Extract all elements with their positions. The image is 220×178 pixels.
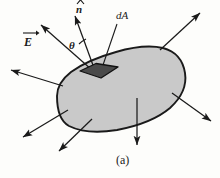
label-normal-vector-text: n <box>76 3 82 15</box>
arrow-E-main <box>41 25 92 70</box>
arrow-upper-right <box>160 13 200 50</box>
arrow-right <box>172 93 211 121</box>
figure-caption: (a) <box>116 154 129 166</box>
label-angle-theta: θ <box>69 40 75 51</box>
arrow-left <box>11 70 63 86</box>
closed-surface-shape <box>57 47 185 132</box>
arrow-lower-left-upper <box>23 110 68 137</box>
arrow-normal-nhat <box>75 16 94 68</box>
flux-diagram <box>0 0 220 178</box>
label-normal-vector: n <box>76 4 82 15</box>
label-area-element: dA <box>116 10 128 21</box>
label-electric-field: E <box>24 36 32 48</box>
figure-container: E n θ dA (a) <box>0 0 220 178</box>
label-electric-field-text: E <box>24 35 32 49</box>
